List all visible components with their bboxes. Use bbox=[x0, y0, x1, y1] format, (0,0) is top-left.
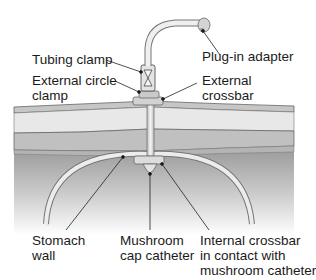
label-mushroom-cap-line1: Mushroom bbox=[120, 233, 184, 248]
label-mushroom-cap-line2: cap catheter bbox=[120, 248, 194, 263]
internal-crossbar bbox=[134, 156, 164, 164]
label-internal-crossbar-line2: in contact with bbox=[200, 248, 286, 263]
label-plug-in-adapter: Plug-in adapter bbox=[202, 49, 294, 64]
label-internal-crossbar-line3: mushroom catheter bbox=[200, 263, 316, 278]
feeding-tube bbox=[148, 23, 201, 66]
external-circle-clamp bbox=[139, 91, 159, 98]
label-tubing-clamp: Tubing clamp bbox=[32, 52, 113, 67]
gastrostomy-diagram: Tubing clamp Plug-in adapter External ci… bbox=[0, 0, 316, 280]
label-external-circle-clamp-line2: clamp bbox=[32, 88, 68, 103]
label-external-crossbar-line1: External bbox=[202, 73, 252, 88]
catheter-stem bbox=[147, 100, 154, 156]
label-internal-crossbar-line1: Internal crossbar bbox=[200, 233, 301, 248]
label-external-circle-clamp-line1: External circle bbox=[32, 73, 117, 88]
label-stomach-wall-line1: Stomach bbox=[32, 233, 85, 248]
label-external-crossbar-line2: crossbar bbox=[202, 88, 254, 103]
tubing-clamp bbox=[141, 65, 155, 91]
label-stomach-wall-line2: wall bbox=[32, 248, 55, 263]
